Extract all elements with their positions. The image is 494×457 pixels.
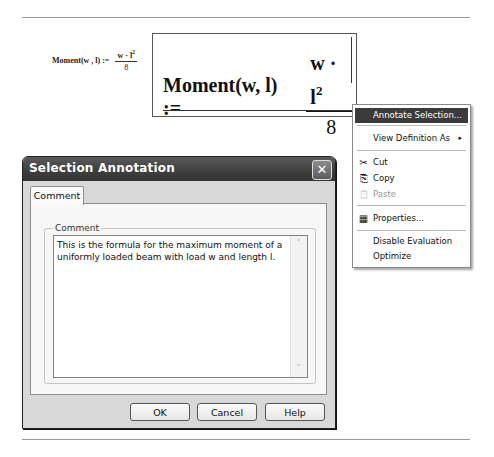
big-numerator-base: w · l xyxy=(310,52,336,108)
big-formula-lhs: Moment(w, l) := xyxy=(163,74,296,120)
big-formula: Moment(w, l) := w · l2 8 xyxy=(163,49,356,142)
selected-formula-region[interactable]: Moment(w, l) := w · l2 8 xyxy=(152,33,357,117)
small-formula-lhs: Moment(w , l) := xyxy=(52,56,109,65)
region-divider-top xyxy=(22,17,470,18)
properties-icon: ▦ xyxy=(358,213,369,224)
dialog-title: Selection Annotation xyxy=(29,161,175,175)
selection-annotation-dialog: Selection Annotation ✕ Comment Comment T… xyxy=(22,156,336,429)
submenu-arrow-icon: ▸ xyxy=(458,131,462,146)
selection-underline xyxy=(163,110,353,111)
menu-item-paste: 📋 Paste xyxy=(355,187,468,202)
menu-separator xyxy=(357,205,466,206)
menu-separator xyxy=(357,125,466,126)
small-numerator-base: w · l xyxy=(117,51,132,60)
editing-cursor xyxy=(351,37,352,83)
close-button[interactable]: ✕ xyxy=(312,160,332,180)
menu-item-optimize[interactable]: Optimize xyxy=(355,249,468,264)
close-icon: ✕ xyxy=(317,162,328,177)
menu-item-view-definition-as[interactable]: View Definition As ▸ xyxy=(355,131,468,146)
comment-groupbox: Comment This is the formula for the maxi… xyxy=(44,228,316,384)
small-formula-denominator: 8 xyxy=(124,62,128,73)
scroll-up-icon[interactable]: ˄ xyxy=(292,237,305,251)
ok-button[interactable]: OK xyxy=(130,403,190,421)
dialog-titlebar[interactable]: Selection Annotation ✕ xyxy=(23,157,335,181)
scroll-down-icon[interactable]: ˅ xyxy=(292,362,305,376)
menu-item-label: Properties... xyxy=(373,213,424,223)
menu-separator xyxy=(357,150,466,151)
small-numerator-exponent: 2 xyxy=(132,49,135,55)
region-divider-bottom xyxy=(22,439,470,440)
menu-item-label: Copy xyxy=(373,173,395,183)
menu-item-label: Disable Evaluation xyxy=(373,236,452,246)
comment-text: This is the formula for the maximum mome… xyxy=(57,239,289,263)
small-formula-numerator: w · l2 xyxy=(115,47,137,62)
small-formula[interactable]: Moment(w , l) := w · l2 8 xyxy=(52,47,137,73)
copy-icon: ⎘ xyxy=(358,173,369,184)
menu-item-label: View Definition As xyxy=(373,133,450,143)
vertical-scrollbar[interactable]: ˄ ˅ xyxy=(290,236,307,377)
tab-panel: Comment This is the formula for the maxi… xyxy=(30,203,327,395)
menu-separator xyxy=(357,230,466,231)
big-formula-fraction: w · l2 8 xyxy=(306,49,356,142)
tab-comment[interactable]: Comment xyxy=(30,186,84,205)
menu-item-cut[interactable]: ✂ Cut xyxy=(355,155,468,170)
clipboard-icon: 📋 xyxy=(358,189,369,200)
menu-item-properties[interactable]: ▦ Properties... xyxy=(355,211,468,226)
menu-item-disable-evaluation[interactable]: Disable Evaluation xyxy=(355,234,468,249)
big-formula-denominator: 8 xyxy=(326,112,336,142)
big-formula-numerator: w · l2 xyxy=(306,49,356,112)
context-menu: Annotate Selection... View Definition As… xyxy=(352,104,471,268)
help-button[interactable]: Help xyxy=(265,403,325,421)
small-formula-fraction: w · l2 8 xyxy=(115,47,137,73)
cancel-button[interactable]: Cancel xyxy=(197,403,257,421)
menu-item-label: Paste xyxy=(373,189,396,199)
menu-item-label: Optimize xyxy=(373,251,411,261)
groupbox-label: Comment xyxy=(53,222,101,234)
scissors-icon: ✂ xyxy=(358,157,369,168)
menu-item-label: Annotate Selection... xyxy=(373,110,462,120)
menu-item-label: Cut xyxy=(373,157,388,167)
menu-item-copy[interactable]: ⎘ Copy xyxy=(355,171,468,186)
big-numerator-exponent: 2 xyxy=(316,83,323,98)
menu-item-annotate-selection[interactable]: Annotate Selection... xyxy=(355,108,468,123)
comment-textarea[interactable]: This is the formula for the maximum mome… xyxy=(53,235,308,378)
